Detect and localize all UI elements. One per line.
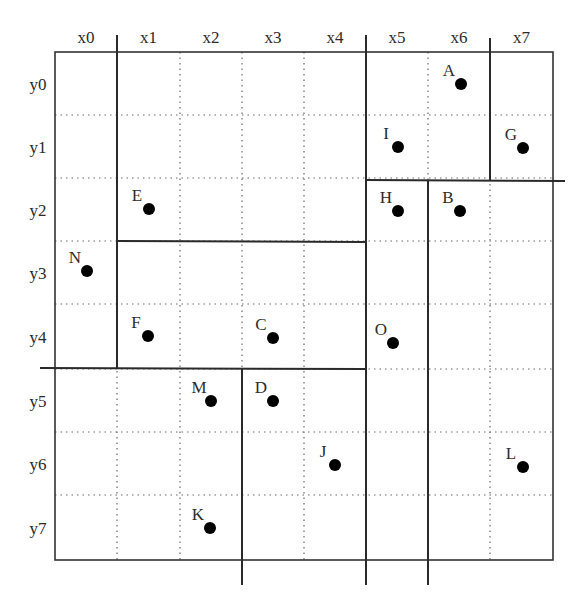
point-label: K xyxy=(192,505,205,524)
point-label: O xyxy=(375,320,387,339)
dotted-grid xyxy=(55,52,553,560)
point-label: C xyxy=(255,315,266,334)
point-dot-icon xyxy=(517,142,529,154)
row-label-y2: y2 xyxy=(30,201,47,220)
point-L: L xyxy=(506,444,529,473)
column-label-x6: x6 xyxy=(451,28,468,47)
row-label-y7: y7 xyxy=(30,519,48,538)
point-dot-icon xyxy=(517,461,529,473)
row-label-y0: y0 xyxy=(30,75,47,94)
point-I: I xyxy=(383,124,404,153)
point-dot-icon xyxy=(329,459,341,471)
point-A: A xyxy=(443,61,467,90)
column-label-x4: x4 xyxy=(327,28,345,47)
column-labels: x0x1x2x3x4x5x6x7 xyxy=(78,28,531,47)
point-label: H xyxy=(380,188,392,207)
point-dot-icon xyxy=(143,203,155,215)
point-E: E xyxy=(132,186,155,215)
point-dot-icon xyxy=(267,395,279,407)
column-label-x0: x0 xyxy=(78,28,95,47)
row-label-y5: y5 xyxy=(30,392,47,411)
point-dot-icon xyxy=(142,330,154,342)
row-label-y6: y6 xyxy=(30,455,47,474)
point-label: F xyxy=(131,313,140,332)
point-dot-icon xyxy=(392,205,404,217)
column-label-x1: x1 xyxy=(140,28,157,47)
kd-tree-partition-diagram: x0x1x2x3x4x5x6x7 y0y1y2y3y4y5y6y7 AIGEHB… xyxy=(0,0,578,599)
point-dot-icon xyxy=(205,395,217,407)
point-dot-icon xyxy=(204,522,216,534)
point-dot-icon xyxy=(454,205,466,217)
column-label-x5: x5 xyxy=(389,28,406,47)
partition-lines xyxy=(40,35,565,585)
row-label-y1: y1 xyxy=(30,138,47,157)
point-label: G xyxy=(505,125,517,144)
point-M: M xyxy=(191,378,217,407)
point-H: H xyxy=(380,188,404,217)
point-dot-icon xyxy=(267,332,279,344)
column-label-x3: x3 xyxy=(265,28,282,47)
point-label: E xyxy=(132,186,142,205)
column-label-x7: x7 xyxy=(513,28,531,47)
point-label: N xyxy=(69,248,81,267)
point-label: D xyxy=(255,378,267,397)
point-dot-icon xyxy=(81,265,93,277)
point-dot-icon xyxy=(387,337,399,349)
point-label: L xyxy=(506,444,516,463)
point-F: F xyxy=(131,313,154,342)
row-label-y3: y3 xyxy=(30,264,47,283)
partition-line-split-y1-y2-right xyxy=(366,180,565,181)
row-labels: y0y1y2y3y4y5y6y7 xyxy=(30,75,48,538)
point-C: C xyxy=(255,315,279,344)
point-dot-icon xyxy=(455,78,467,90)
data-points: AIGEHBNFCOMDJLK xyxy=(69,61,529,534)
point-O: O xyxy=(375,320,399,349)
point-label: B xyxy=(442,188,453,207)
point-label: M xyxy=(191,378,206,397)
column-label-x2: x2 xyxy=(203,28,220,47)
point-B: B xyxy=(442,188,466,217)
partition-line-split-y4-y5-left xyxy=(40,368,366,369)
partition-line-split-y2-y3-mid xyxy=(117,241,366,242)
row-label-y4: y4 xyxy=(30,328,48,347)
point-label: I xyxy=(383,124,389,143)
point-K: K xyxy=(192,505,216,534)
point-D: D xyxy=(255,378,279,407)
point-G: G xyxy=(505,125,529,154)
point-label: A xyxy=(443,61,456,80)
point-label: J xyxy=(320,442,327,461)
point-dot-icon xyxy=(392,141,404,153)
point-N: N xyxy=(69,248,93,277)
point-J: J xyxy=(320,442,341,471)
